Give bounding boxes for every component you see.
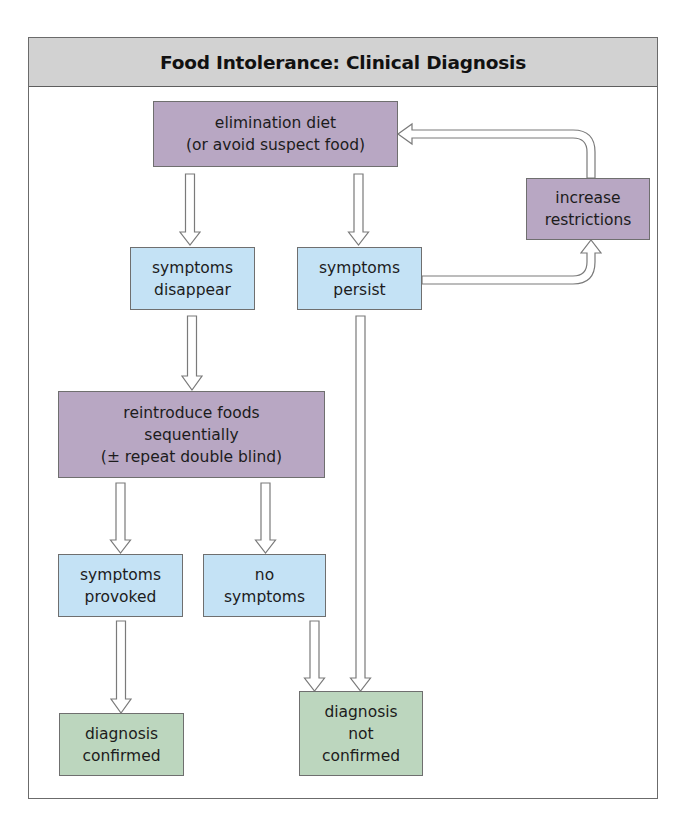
node-text: restrictions bbox=[545, 209, 632, 231]
node-text: reintroduce foods bbox=[123, 402, 259, 424]
node-text: (or avoid suspect food) bbox=[186, 134, 365, 156]
node-text: (± repeat double blind) bbox=[101, 446, 282, 468]
node-text: provoked bbox=[85, 586, 157, 608]
node-text: diagnosis bbox=[324, 701, 397, 723]
arrow-reintroduce-to-nosymptoms bbox=[256, 483, 276, 553]
node-text: symptoms bbox=[319, 257, 400, 279]
node-text: symptoms bbox=[80, 564, 161, 586]
arrow-persist-to-increase bbox=[422, 240, 601, 284]
node-text: increase bbox=[555, 187, 620, 209]
node-reintroduce-foods: reintroduce foods sequentially (± repeat… bbox=[58, 391, 325, 478]
node-diagnosis-confirmed: diagnosis confirmed bbox=[59, 713, 184, 776]
node-symptoms-provoked: symptoms provoked bbox=[58, 554, 183, 617]
arrow-provoked-to-confirmed bbox=[111, 621, 131, 713]
node-diagnosis-not-confirmed: diagnosis not confirmed bbox=[299, 691, 423, 776]
node-text: confirmed bbox=[322, 745, 400, 767]
node-text: disappear bbox=[154, 279, 231, 301]
node-no-symptoms: no symptoms bbox=[203, 554, 326, 617]
node-text: sequentially bbox=[144, 424, 238, 446]
node-text: not bbox=[348, 723, 373, 745]
node-elimination-diet: elimination diet (or avoid suspect food) bbox=[153, 101, 398, 167]
arrow-reintroduce-to-provoked bbox=[111, 483, 131, 553]
node-text: symptoms bbox=[152, 257, 233, 279]
node-text: persist bbox=[333, 279, 385, 301]
arrow-disappear-to-reintroduce bbox=[182, 316, 202, 390]
arrow-elimination-to-persist bbox=[349, 174, 369, 245]
arrow-increase-to-elimination bbox=[398, 124, 595, 178]
node-text: symptoms bbox=[224, 586, 305, 608]
node-symptoms-persist: symptoms persist bbox=[297, 247, 422, 310]
node-text: diagnosis bbox=[85, 723, 158, 745]
arrow-nosymptoms-to-notconfirmed bbox=[305, 621, 325, 691]
node-text: no bbox=[255, 564, 274, 586]
arrow-persist-to-notconfirmed bbox=[351, 316, 371, 691]
node-symptoms-disappear: symptoms disappear bbox=[130, 247, 255, 310]
node-increase-restrictions: increase restrictions bbox=[526, 178, 650, 240]
arrow-elimination-to-disappear bbox=[180, 174, 200, 245]
node-text: elimination diet bbox=[215, 112, 336, 134]
node-text: confirmed bbox=[82, 745, 160, 767]
